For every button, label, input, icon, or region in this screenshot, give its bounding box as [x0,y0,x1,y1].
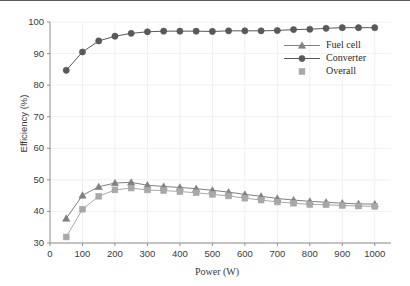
x-tick-label: 1000 [359,248,391,259]
efficiency-vs-power-chart: 30405060708090100 0100200300400500600700… [0,0,410,286]
legend-label: Overall [322,65,356,76]
data-point-converter [242,28,248,34]
y-tick-label: 40 [16,205,44,216]
data-point-overall [80,206,86,212]
legend-item: Converter [282,51,402,64]
data-point-overall [323,202,329,208]
legend-label: Fuel cell [322,39,361,50]
data-point-converter [144,29,150,35]
data-point-converter [193,28,199,34]
data-point-overall [209,191,215,197]
data-point-converter [63,67,69,73]
data-point-converter [323,25,329,31]
legend-key-marker [299,69,305,75]
data-point-converter [79,49,85,55]
x-tick-label: 600 [229,248,261,259]
x-tick-label: 0 [34,248,66,259]
data-point-overall [274,199,280,205]
data-point-converter [112,33,118,39]
data-point-converter [339,25,345,31]
data-point-overall [242,195,248,201]
data-point-overall [258,197,264,203]
data-point-overall [145,187,151,193]
data-point-overall [128,185,134,191]
x-axis-title: Power (W) [50,266,384,277]
data-point-overall [161,188,167,194]
data-point-fuel-cell [79,192,86,198]
data-point-overall [339,203,345,209]
x-tick-label: 300 [131,248,163,259]
data-point-overall [372,203,378,209]
data-point-converter [128,30,134,36]
data-point-overall [193,190,199,196]
data-point-overall [112,187,118,193]
x-tick-label: 700 [261,248,293,259]
y-tick-label: 90 [16,48,44,59]
data-point-converter [274,27,280,33]
data-point-overall [307,202,313,208]
data-point-converter [96,38,102,44]
y-axis-title: Efficiency (%) [18,79,29,169]
legend-label: Converter [322,52,366,63]
data-point-converter [258,28,264,34]
x-tick-label: 200 [99,248,131,259]
data-point-converter [226,28,232,34]
data-point-overall [291,200,297,206]
data-point-converter [290,26,296,32]
x-tick-label: 400 [164,248,196,259]
x-tick-label: 100 [66,248,98,259]
data-point-converter [161,28,167,34]
x-tick-label: 900 [326,248,358,259]
legend-item: Fuel cell [282,38,402,51]
legend-key-marker [299,55,305,61]
data-point-overall [177,189,183,195]
data-point-overall [356,203,362,209]
line-triangle-marker-icon [282,38,322,51]
y-tick-label: 100 [16,16,44,27]
data-point-overall [96,193,102,199]
y-tick-label: 50 [16,174,44,185]
x-tick-label: 500 [196,248,228,259]
data-point-overall [63,234,69,240]
data-point-converter [372,25,378,31]
data-point-fuel-cell [63,215,70,221]
data-point-overall [226,193,232,199]
square-marker-icon [282,64,322,77]
data-point-converter [355,25,361,31]
data-point-converter [307,26,313,32]
x-tick-label: 800 [294,248,326,259]
legend-item: Overall [282,64,402,77]
data-point-converter [209,28,215,34]
y-tick-label: 30 [16,237,44,248]
series-line-overall [66,188,375,237]
data-point-converter [177,28,183,34]
chart-legend: Fuel cellConverterOverall [282,38,402,77]
line-circle-marker-icon [282,51,322,64]
